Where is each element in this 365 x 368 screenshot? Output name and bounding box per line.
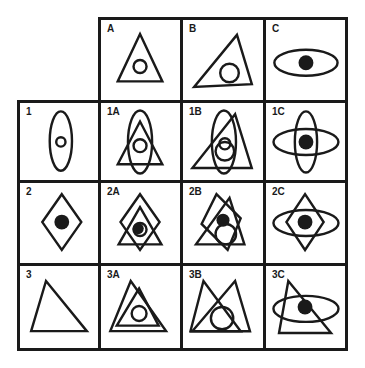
overlapping-triangles-circle-icon — [183, 266, 263, 348]
cell-2a[interactable]: 2A — [98, 180, 183, 266]
crossed-ellipses-dot-icon — [266, 103, 345, 180]
cell-3c[interactable]: 3C — [263, 263, 348, 351]
cell-2c[interactable]: 2C — [263, 180, 348, 266]
cell-2b[interactable]: 2B — [180, 180, 266, 266]
diamond-dot-icon — [20, 183, 98, 263]
diamond-ellipse-dot-icon — [266, 183, 345, 263]
row-header-2: 2 — [17, 180, 101, 266]
triangle-circle-icon — [101, 20, 180, 100]
header-cell-a: A — [98, 17, 183, 103]
diamond-triangle-dot-circle-icon — [101, 183, 180, 263]
cell-1b[interactable]: 1B — [180, 100, 266, 183]
triangle-ellipse-dot-icon — [266, 266, 345, 348]
vertical-ellipse-circle-icon — [20, 103, 98, 180]
cell-1c[interactable]: 1C — [263, 100, 348, 183]
cell-3a[interactable]: 3A — [98, 263, 183, 351]
header-cell-c: C — [263, 17, 348, 103]
header-cell-b: B — [180, 17, 266, 103]
triangle-icon — [20, 266, 98, 348]
tilted-triangle-circle-icon — [183, 20, 263, 100]
tilted-diamond-triangle-dot-circle-icon — [183, 183, 263, 263]
ellipse-triangle-circle-icon — [101, 103, 180, 180]
cell-1a[interactable]: 1A — [98, 100, 183, 183]
nested-triangles-circle-icon — [101, 266, 180, 348]
cell-3b[interactable]: 3B — [180, 263, 266, 351]
ellipse-tilted-triangle-circles-icon — [183, 103, 263, 180]
row-header-3: 3 — [17, 263, 101, 351]
row-header-1: 1 — [17, 100, 101, 183]
ellipse-dot-icon — [266, 20, 345, 100]
